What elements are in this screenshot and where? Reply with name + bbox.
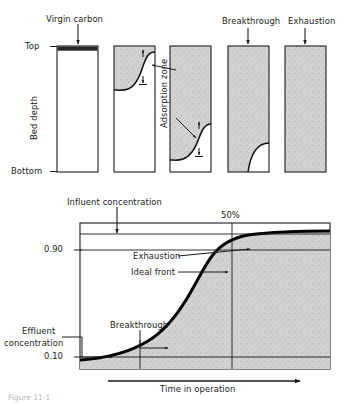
label-ytick-010: 0.10 [44, 351, 63, 361]
label-fifty-percent: 50% [221, 210, 240, 220]
column-zone-upper [114, 46, 155, 172]
figure-caption: Figure 11-1 [8, 393, 50, 402]
spent-band-top [58, 47, 98, 51]
label-effluent-line2: concentration [4, 338, 63, 348]
adsorption-breakthrough-figure: Virgin carbon Breakthrough Exhaustion To… [0, 0, 351, 404]
column-zone-middle [170, 46, 211, 172]
label-influent-concentration: Influent concentration [67, 197, 162, 207]
label-top: Top [25, 41, 39, 51]
label-effluent-line1: Effluent [22, 326, 55, 336]
label-adsorption-zone: Adsorption zone [159, 59, 169, 128]
column-exhausted [285, 46, 326, 172]
label-virgin-carbon: Virgin carbon [46, 14, 103, 24]
label-exhaustion-top: Exhaustion [288, 16, 335, 26]
label-bottom: Bottom [11, 166, 42, 176]
column-virgin-carbon [57, 46, 98, 172]
column-breakthrough [228, 46, 269, 172]
label-breakthrough-top: Breakthrough [222, 16, 280, 26]
effluent-concentration-bracket [62, 337, 82, 357]
label-ideal-front: Ideal front [131, 267, 175, 277]
label-ytick-090: 0.90 [44, 244, 63, 254]
label-time-in-operation: Time in operation [160, 384, 235, 394]
label-bed-depth: Bed depth [29, 96, 39, 140]
label-exhaustion-chart: Exhaustion [133, 251, 180, 261]
label-breakthrough-chart: Breakthrough [110, 320, 168, 330]
